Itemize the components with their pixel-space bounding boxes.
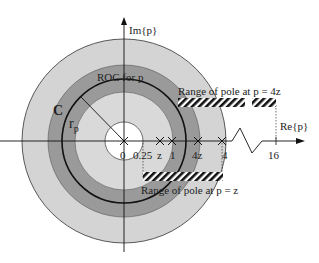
- imag-axis-label: Im{p}: [129, 24, 157, 36]
- tick-label-4z: 4z: [192, 149, 203, 161]
- tick-label-0-25: 0.25: [133, 149, 153, 161]
- real-axis-label: Re{p}: [280, 120, 308, 132]
- range-z-bar: [143, 172, 223, 181]
- range-4z-bar-2: [252, 98, 276, 107]
- tick-label-z: z: [157, 149, 162, 161]
- roc-diagram: Im{p} Re{p} ROC for p C rp Range of pole…: [0, 0, 319, 263]
- imag-axis-arrow-icon: [121, 17, 127, 25]
- real-axis-arrow-icon: [296, 138, 305, 144]
- radius-subscript: p: [74, 123, 79, 134]
- roc-label: ROC for p: [97, 71, 144, 83]
- range-z-label: Range of pole at p = z: [141, 184, 238, 196]
- contour-label: C: [53, 103, 63, 118]
- tick-label-16: 16: [268, 149, 280, 161]
- range-4z-label: Range of pole at p = 4z: [178, 85, 281, 97]
- tick-label-0: 0: [120, 149, 126, 161]
- tick-label-4: 4: [222, 149, 228, 161]
- tick-label-1: 1: [170, 149, 176, 161]
- range-4z-bar-1: [178, 98, 245, 107]
